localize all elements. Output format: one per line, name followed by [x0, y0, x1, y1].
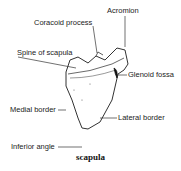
label-lateral-border: Lateral border [118, 114, 165, 122]
label-acromion: Acromion [107, 7, 139, 15]
diagram-caption: scapula [76, 152, 105, 162]
label-spine-of-scapula: Spine of scapula [17, 49, 72, 57]
label-medial-border: Medial border [10, 106, 56, 114]
scapula-diagram: Acromion Coracoid process Spine of scapu… [0, 0, 181, 171]
label-inferior-angle: Inferior angle [11, 143, 55, 151]
label-coracoid-process: Coracoid process [34, 19, 92, 27]
label-glenoid-fossa: Glenoid fossa [128, 71, 174, 79]
